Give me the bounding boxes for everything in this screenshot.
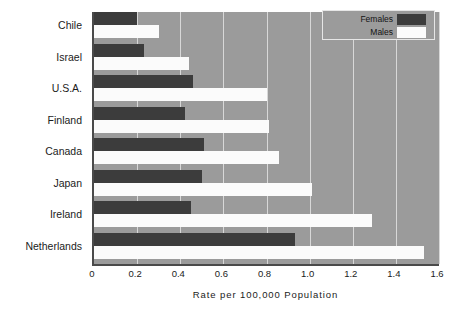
- x-tick-label: 0.4: [172, 268, 185, 279]
- x-tick-label: 1.0: [301, 268, 314, 279]
- category-label-japan: Japan: [0, 178, 82, 189]
- category-label-usa: U.S.A.: [0, 83, 82, 94]
- bar-males-netherlands: [94, 246, 424, 259]
- legend-entry-males: Males: [323, 26, 434, 39]
- chart-legend: FemalesMales: [322, 10, 435, 40]
- gridline: [439, 12, 440, 264]
- x-tick-label: 1.6: [430, 268, 443, 279]
- bar-females-ireland: [94, 201, 191, 214]
- x-axis-line: [92, 264, 439, 266]
- bar-group: [94, 44, 439, 70]
- bar-males-usa: [94, 88, 267, 101]
- bar-males-canada: [94, 151, 279, 164]
- bar-group: [94, 107, 439, 133]
- bar-chart-figure: ChileIsraelU.S.A.FinlandCanadaJapanIrela…: [0, 0, 461, 320]
- x-axis-title: Rate per 100,000 Population: [92, 289, 439, 300]
- bar-males-israel: [94, 57, 189, 70]
- category-label-chile: Chile: [0, 20, 82, 31]
- x-tick-label: 1.4: [387, 268, 400, 279]
- bar-group: [94, 138, 439, 164]
- category-axis: ChileIsraelU.S.A.FinlandCanadaJapanIrela…: [0, 12, 88, 264]
- bar-females-canada: [94, 138, 204, 151]
- bar-males-japan: [94, 183, 312, 196]
- bar-group: [94, 201, 439, 227]
- legend-label: Males: [325, 26, 393, 39]
- x-tick-label: 0.2: [129, 268, 142, 279]
- bar-females-israel: [94, 44, 144, 57]
- category-label-netherlands: Netherlands: [0, 241, 82, 252]
- x-axis-tick-labels: 00.20.40.60.81.01.21.41.6: [0, 268, 461, 282]
- bar-group: [94, 170, 439, 196]
- legend-label: Females: [325, 13, 393, 26]
- category-label-ireland: Ireland: [0, 209, 82, 220]
- bar-females-chile: [94, 12, 137, 25]
- legend-swatch-males: [397, 27, 426, 38]
- x-tick-label: 0: [89, 268, 94, 279]
- x-tick-label: 0.8: [258, 268, 271, 279]
- legend-swatch-females: [397, 14, 426, 25]
- category-label-finland: Finland: [0, 115, 82, 126]
- legend-entry-females: Females: [323, 13, 434, 26]
- x-tick-label: 0.6: [215, 268, 228, 279]
- bar-males-finland: [94, 120, 269, 133]
- bar-group: [94, 75, 439, 101]
- category-label-canada: Canada: [0, 146, 82, 157]
- bar-males-chile: [94, 25, 159, 38]
- bar-females-finland: [94, 107, 185, 120]
- bar-females-usa: [94, 75, 193, 88]
- plot-area: [92, 12, 439, 264]
- category-label-israel: Israel: [0, 52, 82, 63]
- bars-layer: [94, 12, 439, 264]
- bar-males-ireland: [94, 214, 372, 227]
- bar-females-netherlands: [94, 233, 295, 246]
- bar-females-japan: [94, 170, 202, 183]
- x-tick-label: 1.2: [344, 268, 357, 279]
- bar-group: [94, 233, 439, 259]
